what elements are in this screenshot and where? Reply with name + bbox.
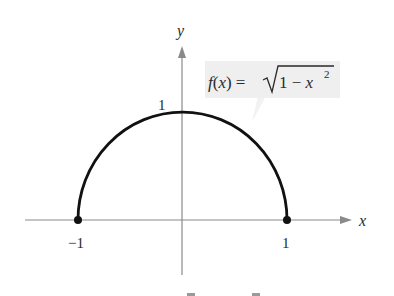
y-axis-arrow-icon xyxy=(178,46,186,58)
function-radicand: 1 − x xyxy=(279,73,314,92)
x-tick-label-neg1: −1 xyxy=(68,235,84,251)
x-axis-arrow-icon xyxy=(340,216,352,224)
y-axis-label: y xyxy=(175,22,185,40)
x-axis-label: x xyxy=(358,212,366,229)
endpoint-right xyxy=(283,216,291,224)
y-tick-label-1: 1 xyxy=(158,97,166,113)
x-tick-label-1: 1 xyxy=(282,235,290,251)
endpoint-left xyxy=(74,216,82,224)
label-pointer xyxy=(252,96,266,122)
function-exponent: 2 xyxy=(324,68,330,80)
function-label: f(x) = xyxy=(208,73,245,92)
semicircle-plot: x y −1 1 1 f(x) = 1 − x 2 xyxy=(0,0,394,296)
